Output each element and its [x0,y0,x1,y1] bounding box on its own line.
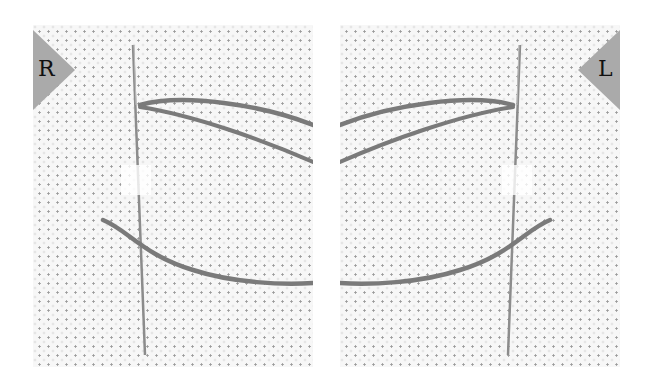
photo-panel-right-hand: R [33,25,313,367]
needle-and-thread-illustration [340,25,620,367]
needle [508,45,520,355]
hand-label: L [598,56,613,81]
needle [133,45,145,355]
hand-label: R [38,56,55,81]
thread-lower [340,220,550,284]
photo-panel-left-hand: L [340,25,620,367]
needle-and-thread-illustration [33,25,313,367]
thread-lower [103,220,313,284]
